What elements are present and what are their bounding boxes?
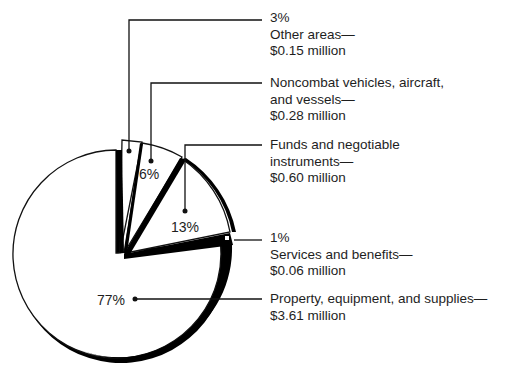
label-funds: Funds and negotiable instruments— $0.60 … — [270, 137, 400, 187]
pct-property: 77% — [97, 292, 125, 308]
label-funds-value: $0.60 million — [270, 170, 400, 187]
pct-funds: 13% — [171, 219, 199, 235]
label-noncombat-line2: and vessels— — [270, 92, 444, 109]
label-funds-line1: Funds and negotiable — [270, 137, 400, 154]
label-property-name: Property, equipment, and supplies— — [270, 291, 487, 308]
label-property: Property, equipment, and supplies— $3.61… — [270, 291, 487, 324]
label-noncombat: Noncombat vehicles, aircraft, and vessel… — [270, 75, 444, 125]
label-noncombat-line1: Noncombat vehicles, aircraft, — [270, 75, 444, 92]
pct-noncombat: 6% — [139, 166, 159, 182]
label-noncombat-value: $0.28 million — [270, 108, 444, 125]
label-funds-line2: instruments— — [270, 154, 400, 171]
label-services: 1% Services and benefits— $0.06 million — [270, 230, 413, 280]
label-other-areas: 3% Other areas— $0.15 million — [270, 10, 355, 60]
label-other-name: Other areas— — [270, 27, 355, 44]
label-other-pct: 3% — [270, 10, 355, 27]
label-services-name: Services and benefits— — [270, 247, 413, 264]
label-other-value: $0.15 million — [270, 43, 355, 60]
label-property-value: $3.61 million — [270, 308, 487, 325]
label-services-value: $0.06 million — [270, 263, 413, 280]
label-services-pct: 1% — [270, 230, 413, 247]
